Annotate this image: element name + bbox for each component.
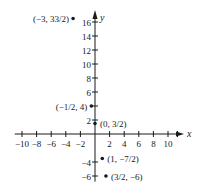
y-axis-ticks: −6−426810121416 bbox=[81, 18, 98, 182]
x-tick-label: 8 bbox=[151, 139, 156, 149]
y-tick-label: 12 bbox=[82, 46, 91, 56]
point-marker-icon bbox=[104, 174, 108, 178]
y-tick-label: 14 bbox=[82, 32, 92, 42]
x-axis-label: x bbox=[186, 128, 192, 139]
point-label: (1, −7/2) bbox=[107, 154, 139, 164]
coordinate-plane-plot: −10−8−6−4−2246810 −6−426810121416 (−3, 3… bbox=[0, 0, 202, 194]
x-tick-label: −8 bbox=[32, 139, 42, 149]
x-tick-label: −6 bbox=[46, 139, 56, 149]
point-label: (3/2, −6) bbox=[111, 172, 143, 182]
y-axis-arrow-icon bbox=[93, 10, 98, 19]
data-point: (−3, 33/2) bbox=[33, 14, 75, 24]
point-marker-icon bbox=[71, 17, 75, 21]
y-tick-label: −4 bbox=[81, 158, 91, 168]
x-tick-label: −4 bbox=[61, 139, 71, 149]
point-label: (−3, 33/2) bbox=[33, 14, 69, 24]
y-tick-label: 8 bbox=[87, 74, 92, 84]
point-label: (0, 3/2) bbox=[100, 119, 127, 129]
point-marker-icon bbox=[90, 104, 94, 108]
x-tick-label: 2 bbox=[107, 139, 112, 149]
point-marker-icon bbox=[101, 157, 105, 161]
x-tick-label: 4 bbox=[122, 139, 127, 149]
y-tick-label: −6 bbox=[81, 172, 91, 182]
axes bbox=[15, 10, 184, 182]
data-point: (1, −7/2) bbox=[101, 154, 139, 164]
x-tick-label: −2 bbox=[76, 139, 86, 149]
data-point: (−1/2, 4) bbox=[56, 102, 93, 112]
data-point: (0, 3/2) bbox=[93, 119, 126, 129]
x-tick-label: 10 bbox=[164, 139, 174, 149]
point-label: (−1/2, 4) bbox=[56, 102, 88, 112]
x-tick-label: −10 bbox=[15, 139, 30, 149]
y-tick-label: 6 bbox=[87, 88, 92, 98]
y-axis-label: y bbox=[99, 12, 105, 23]
point-marker-icon bbox=[93, 122, 97, 126]
y-tick-label: 16 bbox=[82, 18, 92, 28]
x-tick-label: 6 bbox=[137, 139, 142, 149]
y-tick-label: 2 bbox=[87, 116, 92, 126]
data-point: (3/2, −6) bbox=[104, 172, 142, 182]
y-tick-label: 10 bbox=[82, 60, 92, 70]
